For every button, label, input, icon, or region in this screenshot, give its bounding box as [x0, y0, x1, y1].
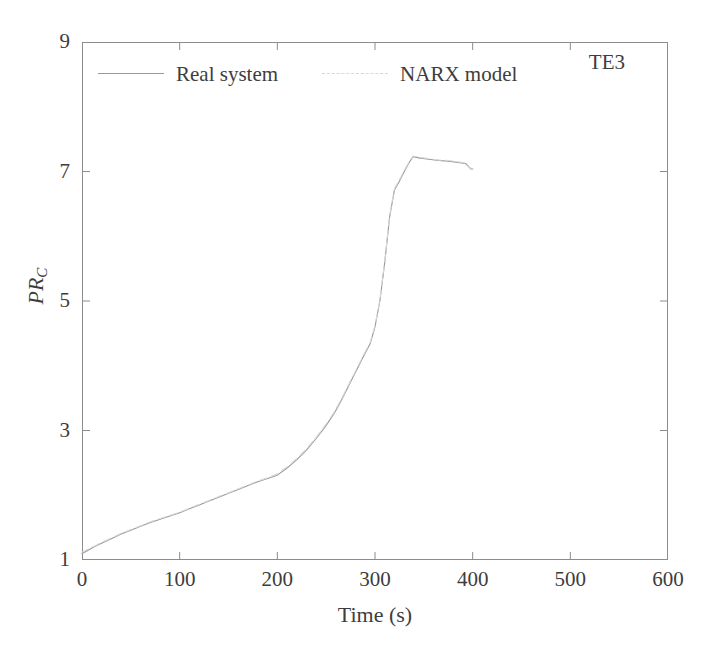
y-tick-label: 1 — [30, 549, 70, 570]
y-tick-label: 9 — [30, 31, 70, 52]
legend-line-solid-icon — [98, 73, 164, 74]
legend-label-narx-model: NARX model — [400, 62, 517, 87]
plot-area — [82, 42, 668, 560]
y-axis-title-subscript: C — [34, 268, 50, 278]
x-axis-title: Time (s) — [82, 602, 668, 628]
x-tick-label: 200 — [247, 569, 307, 590]
legend-swatch-real-system — [98, 67, 164, 81]
legend-entry-real-system: Real system — [98, 62, 278, 87]
y-axis-title: PRC — [23, 241, 51, 331]
x-tick-label: 600 — [638, 569, 698, 590]
x-tick-label: 500 — [540, 569, 600, 590]
legend-line-dashed-icon — [322, 73, 388, 74]
x-tick-label: 300 — [345, 569, 405, 590]
legend-entry-narx-model: NARX model — [322, 62, 517, 87]
legend-label-real-system: Real system — [176, 62, 278, 87]
x-tick-label: 0 — [52, 569, 112, 590]
corner-annotation-te3: TE3 — [589, 50, 625, 75]
legend: Real system NARX model — [98, 58, 518, 90]
y-tick-label: 3 — [30, 420, 70, 441]
x-tick-label: 400 — [443, 569, 503, 590]
figure-te3-pressure-ratio: 13579 0100200300400500600 Time (s) PRC R… — [0, 0, 715, 647]
y-tick-label: 7 — [30, 161, 70, 182]
legend-swatch-narx-model — [322, 67, 388, 81]
y-axis-title-base: PR — [23, 278, 48, 305]
x-tick-label: 100 — [150, 569, 210, 590]
